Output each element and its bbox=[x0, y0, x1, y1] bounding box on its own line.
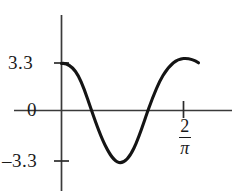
y-axis-label-max: 3.3 bbox=[8, 53, 33, 72]
graph-figure: 3.3 0 –3.3 2 π bbox=[0, 0, 248, 195]
y-axis-label-zero: 0 bbox=[27, 100, 37, 119]
fraction-numerator: 2 bbox=[178, 117, 192, 135]
y-axis-label-min: –3.3 bbox=[2, 151, 37, 170]
x-axis-label-2-over-pi: 2 π bbox=[172, 117, 198, 158]
fraction-denominator: π bbox=[178, 139, 192, 157]
fraction: 2 π bbox=[178, 117, 192, 158]
